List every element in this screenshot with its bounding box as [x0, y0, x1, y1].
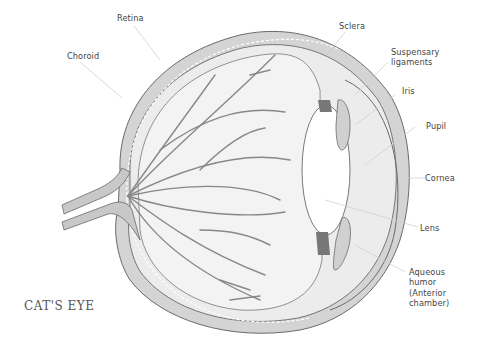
suspensary-ligament-upper — [318, 100, 332, 112]
label-aqueous-humor-line4: chamber) — [409, 298, 449, 308]
diagram-title: CAT'S EYE — [24, 299, 94, 313]
label-cornea: Cornea — [425, 173, 455, 183]
label-choroid: Choroid — [67, 51, 99, 61]
suspensary-ligament-lower — [316, 232, 330, 255]
label-suspensary-ligaments-line2: ligaments — [391, 57, 432, 67]
label-aqueous-humor-line3: (Anterior — [409, 288, 446, 298]
label-retina: Retina — [117, 13, 144, 23]
label-lens: Lens — [420, 223, 439, 233]
label-sclera: Sclera — [339, 21, 365, 31]
label-suspensary-ligaments-line1: Suspensary — [391, 47, 440, 57]
label-iris: Iris — [402, 86, 415, 96]
label-aqueous-humor-line2: humor — [409, 277, 436, 287]
label-aqueous-humor-line1: Aqueous — [409, 267, 445, 277]
label-pupil: Pupil — [426, 121, 446, 131]
